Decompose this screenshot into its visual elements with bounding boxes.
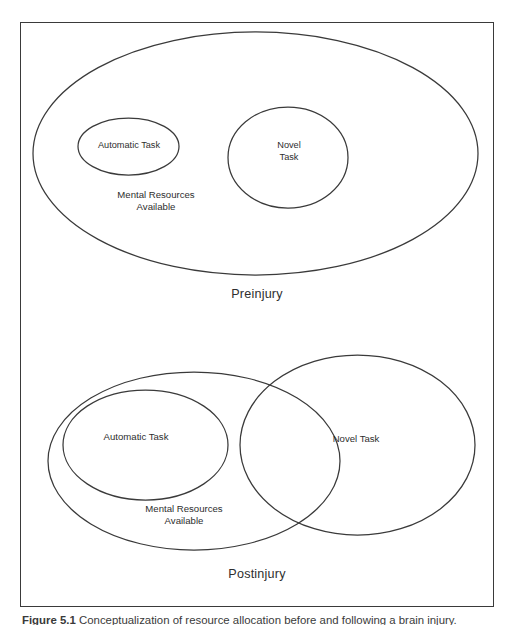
preinjury-novel-task-label: Novel Task: [240, 140, 338, 164]
figure-caption-label: Figure 5.1: [22, 614, 76, 625]
figure-caption-text: Conceptualization of resource allocation…: [79, 614, 457, 625]
postinjury-mental-resources-label: Mental Resources Available: [120, 503, 248, 528]
figure-caption: Figure 5.1 Conceptualization of resource…: [22, 612, 494, 625]
postinjury-panel-title: Postinjury: [157, 566, 357, 582]
preinjury-panel-title: Preinjury: [157, 286, 357, 302]
panel-postinjury: [21, 23, 493, 606]
postinjury-novel-task-label: Novel Task: [306, 433, 406, 445]
preinjury-automatic-task-label: Automatic Task: [78, 140, 180, 152]
figure-root: Automatic Task Novel Task Mental Resourc…: [0, 0, 514, 625]
figure-frame-border: [20, 22, 494, 607]
postinjury-automatic-task-label: Automatic Task: [84, 431, 188, 443]
preinjury-mental-resources-label: Mental Resources Available: [92, 189, 220, 214]
